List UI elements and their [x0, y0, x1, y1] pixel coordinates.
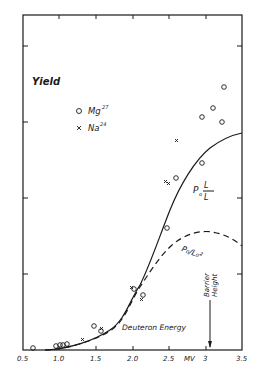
- legend-na-sup: 24: [100, 121, 106, 127]
- deuteron-energy-label: Deuteron Energy: [122, 323, 186, 332]
- y-axis-label: Yield: [32, 76, 61, 87]
- barrier-arrow-icon: [208, 341, 212, 348]
- plot-frame: [23, 15, 242, 350]
- x-tick-1.5: 1.5: [90, 355, 102, 363]
- legend: Mg 27 Na 24: [77, 104, 110, 133]
- legend-mg-sup: 27: [102, 104, 109, 110]
- solid-label-num: L: [204, 181, 208, 190]
- x-tick-3.5: 3.5: [236, 355, 248, 363]
- legend-mg-label: Mg: [88, 106, 101, 116]
- solid-label-sub: o: [199, 191, 202, 197]
- x-tick-2.5: 2.5: [163, 355, 175, 363]
- barrier-height-annotation: Barrier Height: [203, 272, 219, 348]
- x-tick-3: 3: [203, 355, 207, 363]
- left-ticks: [23, 46, 28, 274]
- legend-na-label: Na: [88, 123, 100, 133]
- solid-curve: [45, 133, 242, 350]
- na24-points: [81, 139, 178, 341]
- x-tick-1.0: 1.0: [53, 355, 65, 363]
- x-unit-mv: MV: [184, 355, 196, 363]
- legend-x-icon: [77, 126, 81, 130]
- solid-label-den: L: [204, 193, 208, 202]
- dashed-curve-label: P₀/L₀²: [180, 244, 204, 260]
- x-tick-0.5: 0.5: [17, 355, 29, 363]
- right-ticks: [237, 46, 242, 274]
- mg27-points: [31, 85, 227, 351]
- legend-circle-icon: [77, 109, 82, 114]
- yield-chart: 0.5 1.0 1.5 2.0 2.5 MV 3 3.5 Yield Mg 27…: [0, 0, 258, 371]
- solid-curve-label: P o L L: [193, 181, 214, 202]
- x-tick-2.0: 2.0: [127, 355, 139, 363]
- height-label: Height: [211, 274, 219, 297]
- x-tick-labels: 0.5 1.0 1.5 2.0 2.5 MV 3 3.5: [17, 355, 248, 363]
- barrier-label: Barrier: [203, 272, 211, 297]
